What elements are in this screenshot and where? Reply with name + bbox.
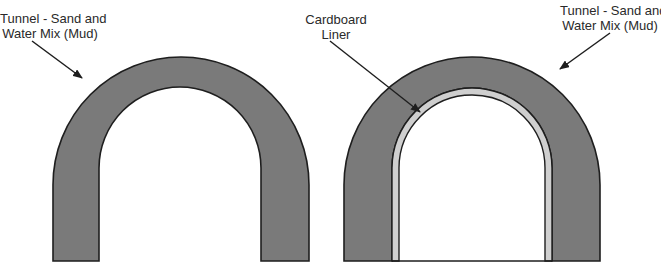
right-tunnel-label-line1: Tunnel - Sand and xyxy=(560,3,660,18)
right-label-arrow xyxy=(560,33,610,69)
diagram-stage: Tunnel - Sand and Water Mix (Mud) Cardbo… xyxy=(0,0,661,269)
right-tunnel-cardboard-liner xyxy=(392,88,552,261)
left-tunnel xyxy=(53,57,309,261)
left-tunnel-label-line1: Tunnel - Sand and xyxy=(0,11,100,26)
left-tunnel-label: Tunnel - Sand and Water Mix (Mud) xyxy=(0,11,100,41)
left-tunnel-label-line2: Water Mix (Mud) xyxy=(0,26,100,41)
right-tunnel-label-line2: Water Mix (Mud) xyxy=(560,18,660,33)
cardboard-liner-label: Cardboard Liner xyxy=(296,12,376,42)
cardboard-liner-label-line1: Cardboard xyxy=(296,12,376,27)
left-label-arrow xyxy=(32,41,82,78)
right-tunnel xyxy=(344,57,600,261)
cardboard-liner-label-line2: Liner xyxy=(296,27,376,42)
left-tunnel-mud-wall xyxy=(53,57,309,261)
right-tunnel-label: Tunnel - Sand and Water Mix (Mud) xyxy=(560,3,660,33)
